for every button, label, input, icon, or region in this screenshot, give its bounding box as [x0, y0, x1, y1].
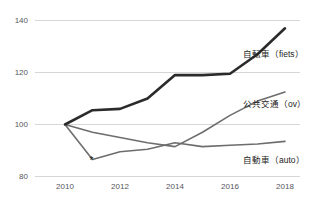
x-tick-2018: 2018: [267, 182, 303, 191]
series-label-bicycle: 自転車（fiets）: [243, 49, 304, 59]
x-tick-2016: 2016: [212, 182, 248, 191]
x-tick-2012: 2012: [102, 182, 138, 191]
y-tick-100: 100: [6, 120, 28, 129]
series-label-transit: 公共交通（ov）: [243, 99, 306, 109]
y-tick-120: 120: [6, 68, 28, 77]
series-label-car: 自動車（auto）: [243, 155, 305, 165]
footnote-asterisk-marker: *: [90, 156, 94, 166]
y-tick-140: 140: [6, 16, 28, 25]
series-line-bicycle: [65, 28, 285, 124]
series-paths: [65, 28, 285, 159]
line-chart: 140 120 100 80 2010 2012 2014 2016 2018 …: [0, 0, 312, 203]
x-tick-2010: 2010: [47, 182, 83, 191]
x-tick-2014: 2014: [157, 182, 193, 191]
y-tick-80: 80: [6, 172, 28, 181]
